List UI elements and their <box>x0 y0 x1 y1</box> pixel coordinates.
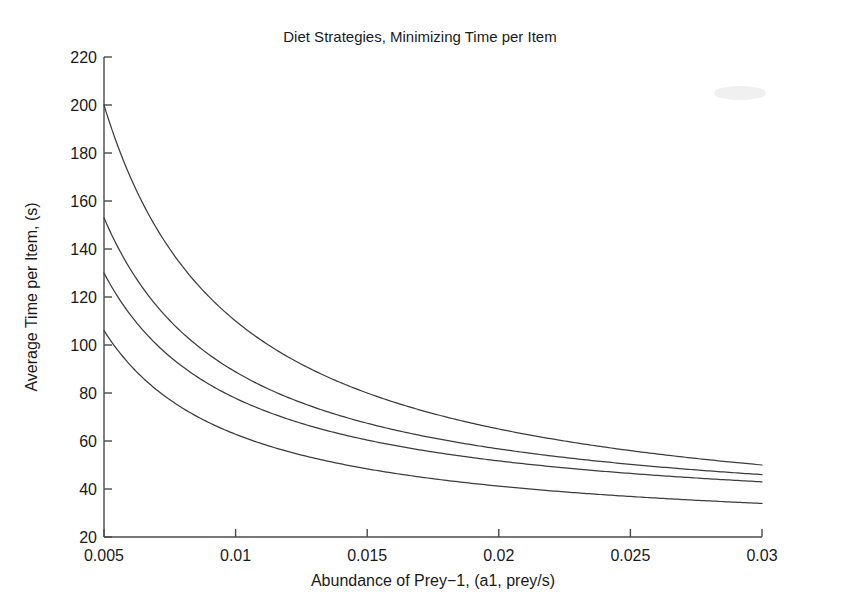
y-tick-label: 40 <box>79 481 97 498</box>
x-tick-label: 0.005 <box>84 547 124 564</box>
y-tick-label: 220 <box>70 49 97 66</box>
y-axis-label: Average Time per Item, (s) <box>23 202 40 391</box>
y-tick-label: 100 <box>70 337 97 354</box>
y-tick-label: 60 <box>79 433 97 450</box>
y-tick-label: 120 <box>70 289 97 306</box>
chart-title: Diet Strategies, Minimizing Time per Ite… <box>283 28 556 45</box>
y-tick-label: 160 <box>70 193 97 210</box>
y-tick-label: 200 <box>70 97 97 114</box>
scan-artifact <box>714 86 766 100</box>
figure-canvas: Diet Strategies, Minimizing Time per Ite… <box>0 0 844 607</box>
y-tick-label: 140 <box>70 241 97 258</box>
x-tick-label: 0.025 <box>610 547 650 564</box>
x-tick-label: 0.015 <box>347 547 387 564</box>
y-tick-label: 180 <box>70 145 97 162</box>
y-tick-label: 20 <box>79 529 97 546</box>
x-axis-label: Abundance of Prey−1, (a1, prey/s) <box>311 572 555 589</box>
x-tick-label: 0.01 <box>220 547 251 564</box>
y-tick-label: 80 <box>79 385 97 402</box>
x-tick-label: 0.02 <box>483 547 514 564</box>
x-tick-label: 0.03 <box>746 547 777 564</box>
chart-svg: Diet Strategies, Minimizing Time per Ite… <box>0 0 844 607</box>
